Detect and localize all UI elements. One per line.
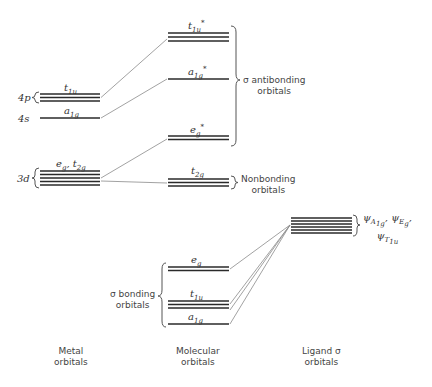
label-ligand-psi: ψA1g, ψEg, ψT1u [363,213,412,247]
label-3d-shell: 3d [17,174,30,184]
label-3d-eg-t2g: eg, t2g [56,159,86,172]
label-a1g: a1g [188,312,203,325]
brace-4p [32,92,39,103]
label-eg: eg [191,255,201,268]
diagram-lines [0,0,432,387]
label-t1u-star: t1u* [188,20,205,34]
brace-bonding [158,263,166,327]
label-a1g-star: a1g* [188,66,206,80]
metal-connectors [101,39,167,183]
ligand-connectors [230,225,290,324]
label-t2g: t2g [191,166,204,179]
label-4p-shell: 4p [18,93,31,103]
mo-diagram: 4p t1u 4s a1g 3d eg, t2g t1u* a1g* eg* t… [0,0,432,387]
label-4p-t1u: t1u [64,83,77,96]
label-eg-star: eg* [190,124,204,138]
metal-3d-levels [40,171,100,185]
ligand-levels [291,218,352,233]
mo-t1u-levels [168,301,229,308]
metal-orbitals-caption: Metal orbitals [54,346,88,368]
brace-antibonding [231,26,240,146]
bonding-caption: σ bonding orbitals [110,289,155,311]
label-4s-shell: 4s [18,114,30,124]
antibonding-caption: σ antibonding orbitals [243,75,305,97]
ligand-orbitals-caption: Ligand σ orbitals [302,346,341,368]
label-t1u: t1u [190,289,203,302]
mo-t2g-levels [168,179,229,186]
brace-ligand [353,215,360,236]
brace-nonbonding [231,176,238,189]
label-4s-a1g: a1g [64,106,79,119]
molecular-orbitals-caption: Molecular orbitals [176,346,220,368]
brace-3d [32,168,39,188]
nonbonding-caption: Nonbonding orbitals [241,174,296,196]
